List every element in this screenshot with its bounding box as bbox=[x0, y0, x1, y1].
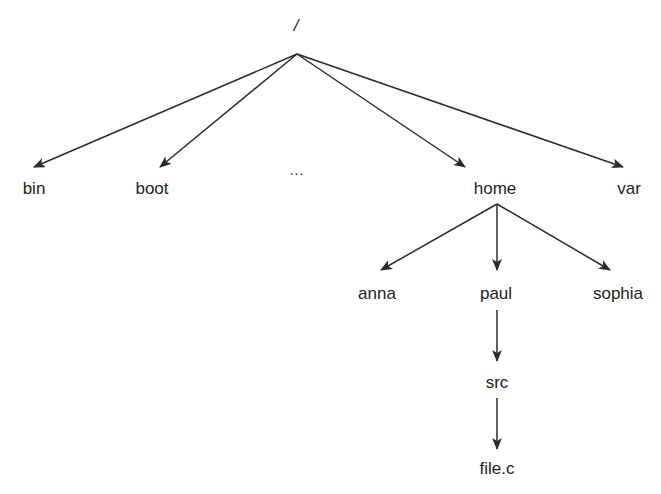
node-root: / bbox=[294, 16, 299, 36]
node-var: var bbox=[617, 179, 641, 199]
node-anna: anna bbox=[358, 284, 396, 304]
edge-root-to-boot bbox=[160, 54, 297, 167]
edge-root-to-var bbox=[297, 54, 623, 167]
edge-root-to-bin bbox=[34, 54, 297, 167]
node-bin: bin bbox=[23, 179, 46, 199]
tree-edges bbox=[0, 0, 661, 494]
edge-group bbox=[34, 54, 623, 449]
node-sophia: sophia bbox=[593, 284, 643, 304]
node-src: src bbox=[486, 373, 509, 393]
node-home: home bbox=[474, 179, 517, 199]
node-paul: paul bbox=[480, 284, 512, 304]
node-file-c: file.c bbox=[480, 459, 515, 479]
directory-tree-diagram: / bin boot ... home var anna paul sophia… bbox=[0, 0, 661, 494]
node-boot: boot bbox=[135, 179, 168, 199]
edge-root-to-home bbox=[297, 54, 465, 167]
edge-home-to-sophia bbox=[497, 204, 610, 270]
node-ellipsis: ... bbox=[290, 160, 305, 180]
edge-home-to-anna bbox=[381, 204, 497, 270]
